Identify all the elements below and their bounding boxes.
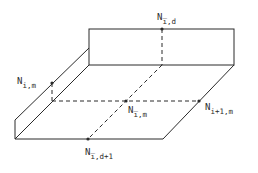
label-center: Ni̅,m	[128, 105, 147, 119]
node-right	[197, 99, 200, 102]
node-bottom	[86, 137, 89, 140]
node-left	[50, 81, 53, 84]
label-bottom: Ni̅,d+1	[85, 147, 113, 161]
label-right: Ni+1,m	[205, 102, 233, 116]
node-center	[124, 99, 127, 102]
left-wall-bottom-edge	[15, 65, 89, 139]
control-volume-diagram: Ni̅,dNi,mNi̅,mNi+1,mNi̅,d+1	[0, 0, 258, 173]
node-top	[160, 27, 163, 30]
label-top: Ni̅,d	[157, 12, 176, 26]
label-left: Ni,m	[17, 76, 36, 90]
